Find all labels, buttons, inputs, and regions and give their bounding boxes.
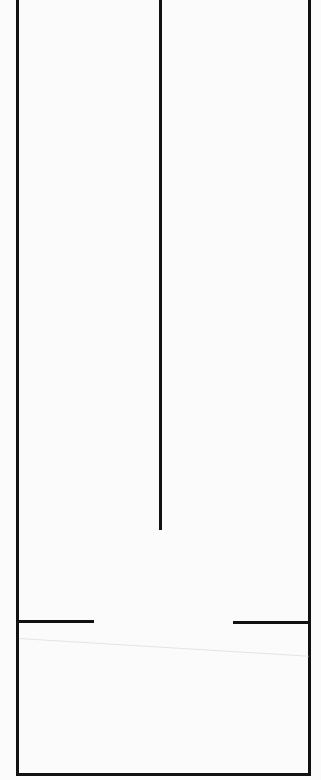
partition-left-segment xyxy=(16,620,94,623)
center-divider-wall xyxy=(159,0,162,530)
outer-wall-right xyxy=(308,0,311,776)
partition-right-segment xyxy=(233,621,310,624)
outer-wall-left xyxy=(16,0,19,776)
outer-wall-bottom xyxy=(16,773,311,776)
scan-artifact-line xyxy=(19,638,309,657)
floor-plan-diagram xyxy=(0,0,321,780)
